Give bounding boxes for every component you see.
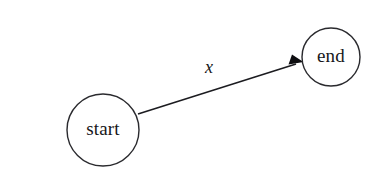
state-diagram: x start end bbox=[0, 0, 381, 176]
edge-label-x: x bbox=[204, 57, 213, 77]
node-end-label: end bbox=[317, 45, 345, 66]
edge-start-to-end[interactable]: x bbox=[138, 54, 304, 114]
node-end[interactable]: end bbox=[302, 28, 360, 86]
edge-line bbox=[138, 64, 296, 114]
node-start[interactable]: start bbox=[67, 94, 139, 166]
diagram-canvas: x start end bbox=[0, 0, 381, 176]
node-start-label: start bbox=[86, 118, 120, 139]
arrow-head-icon bbox=[289, 54, 304, 64]
